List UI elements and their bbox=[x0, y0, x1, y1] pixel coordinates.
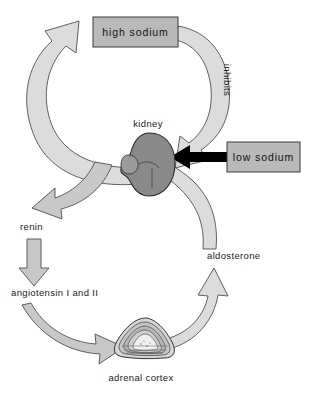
arrow-angiotensin-to-adrenal bbox=[22, 303, 124, 364]
renin-label: renin bbox=[20, 221, 43, 232]
kidney-label: kidney bbox=[133, 118, 163, 129]
high-sodium-label: high sodium bbox=[102, 26, 169, 38]
adrenal-cortex-organ bbox=[114, 318, 174, 359]
angiotensin-label: angiotensin I and II bbox=[11, 287, 98, 298]
kidney-organ bbox=[121, 133, 175, 196]
arrow-adrenal-to-aldosterone bbox=[166, 268, 228, 349]
node-high-sodium[interactable]: high sodium bbox=[93, 17, 178, 47]
node-low-sodium[interactable]: low sodium bbox=[227, 142, 300, 172]
low-sodium-label: low sodium bbox=[233, 151, 295, 163]
inhibits-label: inhibits bbox=[222, 64, 233, 96]
arrow-high-sodium-to-kidney bbox=[175, 26, 230, 168]
aldosterone-label: aldosterone bbox=[207, 250, 261, 261]
cycle-diagram: high sodium low sodium kidney renin angi… bbox=[0, 0, 315, 398]
arrow-renin-to-angiotensin bbox=[19, 239, 49, 286]
diagram-canvas: high sodium low sodium kidney renin angi… bbox=[0, 0, 315, 398]
adrenal-cortex-label: adrenal cortex bbox=[108, 372, 173, 383]
